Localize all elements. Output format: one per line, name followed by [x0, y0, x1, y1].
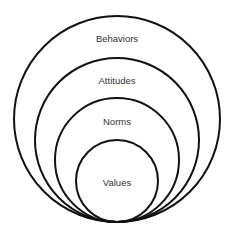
label-values: Values — [103, 177, 132, 188]
nested-circles-diagram: Behaviors Attitudes Norms Values — [0, 0, 232, 242]
label-behaviors: Behaviors — [96, 33, 138, 44]
label-norms: Norms — [103, 116, 131, 127]
label-attitudes: Attitudes — [99, 75, 136, 86]
